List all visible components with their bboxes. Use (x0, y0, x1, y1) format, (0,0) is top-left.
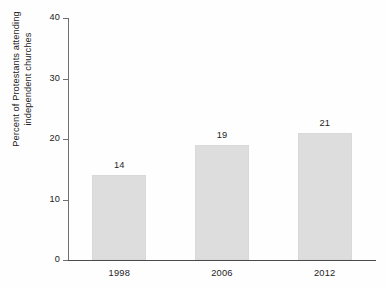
y-axis-tick-label: 30 (20, 73, 60, 83)
plot-area: 141921 (68, 18, 376, 260)
y-axis-tick-label: 0 (20, 254, 60, 264)
x-axis-tick-label: 2012 (285, 268, 365, 278)
y-axis-title: Percent of Protestants attending indepen… (10, 0, 40, 179)
y-axis-title-line-2: independent churches (22, 0, 34, 179)
y-axis-title-line-1: Percent of Protestants attending (10, 0, 22, 179)
y-axis-tick-label: 40 (20, 12, 60, 22)
bar[interactable] (298, 133, 352, 260)
x-axis-tick-label: 1998 (79, 268, 159, 278)
bar[interactable] (195, 145, 249, 260)
y-axis-tick-label: 20 (20, 133, 60, 143)
bar[interactable] (92, 175, 146, 260)
bar-chart-figure: Percent of Protestants attending indepen… (0, 0, 386, 288)
bar-value-label: 14 (89, 160, 149, 170)
x-axis-line (68, 260, 376, 261)
bar-value-label: 21 (295, 118, 355, 128)
bar-value-label: 19 (192, 130, 252, 140)
x-axis-tick-label: 2006 (182, 268, 262, 278)
y-axis-tick-mark (63, 260, 68, 261)
y-axis-tick-label: 10 (20, 194, 60, 204)
